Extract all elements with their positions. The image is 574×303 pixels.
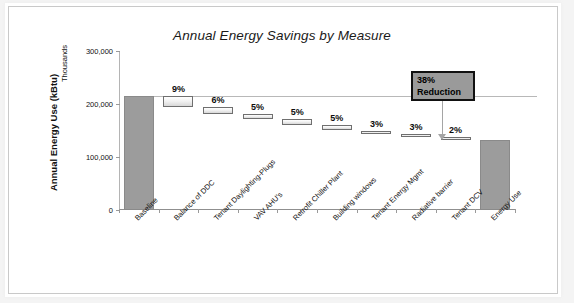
y-tick-label: 200,000 [86,100,113,109]
chart-title: Annual Energy Savings by Measure [29,28,535,43]
y-tick-label: 0 [109,206,113,215]
bar-balance-of-ddc [163,96,193,107]
x-tick-mark [515,209,516,213]
x-tick-mark [159,209,160,213]
bar-value-label: 9% [172,84,185,94]
bar-value-label: 5% [251,102,264,112]
x-tick-mark [475,209,476,213]
bar-tenant-daylighting-plugs [203,107,233,114]
y-tick-label: 100,000 [86,153,113,162]
y-tick-mark [116,51,120,52]
reduction-callout-box: 38% Reduction [411,71,475,101]
callout-line-2: Reduction [417,87,473,99]
bar-value-label: 5% [291,107,304,117]
callout-arrow-line [442,101,443,136]
bar-tenant-energy-mgmt [361,131,391,135]
bar-value-label: 5% [330,113,343,123]
bar-vav-ahu-s [243,114,273,120]
bar-value-label: 3% [409,122,422,132]
x-tick-mark [357,209,358,213]
callout-arrow-head [438,134,446,140]
bar-value-label: 6% [211,95,224,105]
page-frame: Annual Energy Savings by Measure Annual … [8,6,558,294]
bar-baseline [124,96,154,210]
x-tick-mark [396,209,397,213]
chart-canvas: Annual Energy Savings by Measure Annual … [29,19,535,281]
bar-radiative-barrier [401,134,431,137]
bar-building-windows [322,125,352,130]
bar-value-label: 2% [449,125,462,135]
y-tick-mark [116,104,120,105]
x-tick-mark [277,209,278,213]
bar-value-label: 3% [370,119,383,129]
x-tick-mark [436,209,437,213]
x-tick-mark [238,209,239,213]
x-tick-mark [119,209,120,213]
y-tick-label: 300,000 [86,47,113,56]
chart-screenshot: Annual Energy Savings by Measure Annual … [0,0,574,303]
y-axis-line [119,51,120,210]
y-tick-mark [116,157,120,158]
x-tick-mark [317,209,318,213]
bar-retrofit-chiller-plant [282,119,312,125]
x-tick-mark [198,209,199,213]
y-axis-title: Annual Energy Use (kBtu) [48,63,59,203]
y-axis-units-label: Thousands [60,34,69,94]
callout-line-1: 38% [417,75,473,87]
